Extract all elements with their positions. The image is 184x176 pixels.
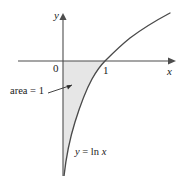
figure-container: y x 0 1 area = 1 y = ln x [0,0,184,176]
area-annotation-label: area = 1 [10,86,44,97]
x-tick-label-one: 1 [103,65,109,76]
y-axis-arrowhead [59,13,66,20]
y-axis-label: y [54,10,59,21]
equation-operator: = ln [80,146,102,157]
x-axis-label: x [167,66,172,77]
curve-equation-label: y = ln x [75,147,106,158]
x-axis-arrowhead [168,57,176,64]
origin-tick-label: 0 [53,63,59,74]
equation-x-term: x [102,146,107,157]
shaded-area-region [63,61,105,176]
